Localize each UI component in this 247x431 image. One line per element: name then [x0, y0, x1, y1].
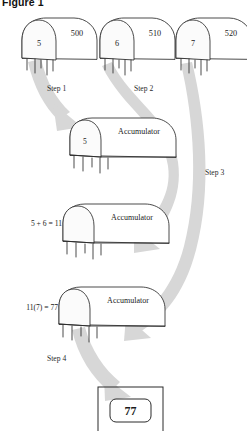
memory-cell-520[interactable]: 7 520	[176, 18, 247, 75]
memory-cell-500[interactable]: 5 500	[22, 18, 97, 75]
accumulator-3-label: Accumulator	[107, 296, 149, 305]
figure-canvas: Figure 1 5 500	[0, 0, 247, 431]
memory-cell-510-value: 6	[115, 39, 119, 48]
accumulator-1-value: 5	[83, 137, 87, 146]
figure-title: Figure 1	[2, 0, 44, 8]
result-value: 77	[125, 404, 137, 418]
memory-cell-520-address: 520	[225, 29, 237, 38]
accumulator-2[interactable]: Accumulator 5 + 6 = 11	[31, 204, 169, 259]
memory-cell-510[interactable]: 6 510	[100, 18, 175, 75]
accumulator-2-equation: 5 + 6 = 11	[31, 219, 62, 228]
accumulator-2-label: Accumulator	[111, 213, 153, 222]
memory-cell-520-value: 7	[191, 39, 195, 48]
result-box[interactable]: 77	[98, 387, 163, 431]
accumulator-3-equation: 11(7) = 77	[26, 303, 58, 312]
memory-cell-500-address: 500	[71, 29, 83, 38]
step-label-3: Step 3	[205, 168, 224, 177]
objects-layer: 5 500 6 510 7 520 5 Accumulator	[0, 0, 247, 431]
accumulator-1-label: Accumulator	[118, 127, 160, 136]
accumulator-1[interactable]: 5 Accumulator	[70, 118, 176, 173]
step-label-2: Step 2	[134, 84, 153, 93]
accumulator-3[interactable]: Accumulator 11(7) = 77	[26, 287, 165, 342]
step-label-1: Step 1	[47, 84, 66, 93]
memory-cell-500-value: 5	[37, 39, 41, 48]
memory-cell-510-address: 510	[149, 29, 161, 38]
step-label-4: Step 4	[47, 354, 66, 363]
